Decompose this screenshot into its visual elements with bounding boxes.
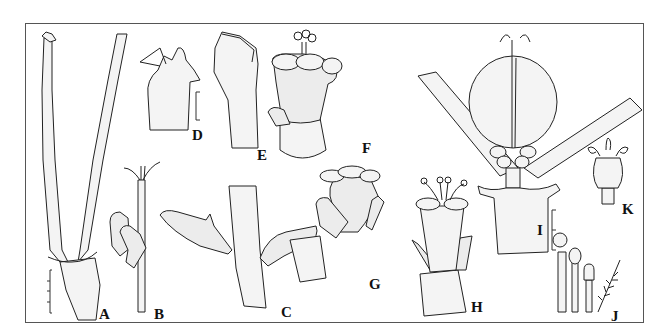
panel-f-drawing <box>268 30 342 158</box>
panel-label-b: B <box>154 307 164 322</box>
panel-a-drawing <box>42 32 127 320</box>
panel-b-drawing <box>110 162 160 312</box>
panel-label-c: C <box>281 305 292 320</box>
panel-label-h: H <box>471 300 483 315</box>
panel-label-d: D <box>192 128 203 143</box>
panel-d-drawing <box>140 48 200 130</box>
panel-label-a: A <box>99 307 110 322</box>
panel-label-e: E <box>257 148 267 163</box>
panel-g-drawing <box>290 166 384 282</box>
panel-label-j: J <box>611 309 619 324</box>
panel-j-drawing <box>553 233 620 312</box>
panel-label-i: I <box>537 223 543 238</box>
panel-label-k: K <box>622 202 634 217</box>
panel-label-f: F <box>362 141 371 156</box>
panel-label-g: G <box>369 277 381 292</box>
botanical-plate-artwork <box>0 0 666 334</box>
panel-k-drawing <box>588 138 628 204</box>
panel-e-drawing <box>214 32 258 148</box>
panel-h-drawing <box>412 177 472 316</box>
